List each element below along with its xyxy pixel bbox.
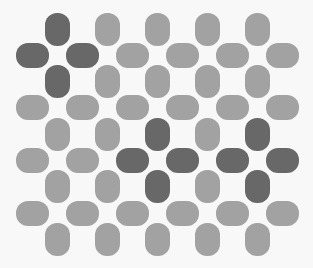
horizontal-piece-dark[interactable] [116, 148, 149, 173]
horizontal-piece-light[interactable] [66, 148, 99, 173]
vertical-piece-dark[interactable] [45, 13, 70, 46]
horizontal-piece-light[interactable] [166, 43, 199, 68]
game-board [0, 0, 313, 268]
vertical-piece-light[interactable] [45, 118, 70, 151]
horizontal-piece-dark[interactable] [216, 148, 249, 173]
horizontal-piece-light[interactable] [66, 201, 99, 226]
vertical-piece-light[interactable] [195, 65, 220, 98]
horizontal-piece-light[interactable] [266, 43, 299, 68]
horizontal-piece-light[interactable] [116, 201, 149, 226]
vertical-piece-light[interactable] [245, 223, 270, 256]
horizontal-piece-light[interactable] [116, 43, 149, 68]
vertical-piece-light[interactable] [95, 170, 120, 203]
horizontal-piece-light[interactable] [266, 201, 299, 226]
vertical-piece-dark[interactable] [145, 118, 170, 151]
vertical-piece-light[interactable] [95, 13, 120, 46]
vertical-piece-dark[interactable] [245, 170, 270, 203]
vertical-piece-dark[interactable] [245, 118, 270, 151]
horizontal-piece-light[interactable] [16, 148, 49, 173]
vertical-piece-light[interactable] [95, 65, 120, 98]
horizontal-piece-dark[interactable] [16, 43, 49, 68]
horizontal-piece-light[interactable] [216, 95, 249, 120]
vertical-piece-light[interactable] [195, 223, 220, 256]
horizontal-piece-light[interactable] [166, 201, 199, 226]
vertical-piece-light[interactable] [245, 65, 270, 98]
horizontal-piece-light[interactable] [16, 95, 49, 120]
vertical-piece-light[interactable] [145, 13, 170, 46]
vertical-piece-light[interactable] [95, 223, 120, 256]
vertical-piece-light[interactable] [195, 118, 220, 151]
vertical-piece-light[interactable] [195, 170, 220, 203]
horizontal-piece-dark[interactable] [266, 148, 299, 173]
vertical-piece-light[interactable] [195, 13, 220, 46]
vertical-piece-dark[interactable] [45, 65, 70, 98]
horizontal-piece-light[interactable] [216, 43, 249, 68]
horizontal-piece-light[interactable] [266, 95, 299, 120]
horizontal-piece-light[interactable] [66, 95, 99, 120]
horizontal-piece-light[interactable] [166, 95, 199, 120]
horizontal-piece-dark[interactable] [166, 148, 199, 173]
vertical-piece-light[interactable] [145, 223, 170, 256]
vertical-piece-light[interactable] [245, 13, 270, 46]
vertical-piece-light[interactable] [95, 118, 120, 151]
vertical-piece-light[interactable] [145, 65, 170, 98]
horizontal-piece-light[interactable] [16, 201, 49, 226]
horizontal-piece-light[interactable] [116, 95, 149, 120]
vertical-piece-light[interactable] [45, 170, 70, 203]
vertical-piece-light[interactable] [45, 223, 70, 256]
vertical-piece-dark[interactable] [145, 170, 170, 203]
horizontal-piece-light[interactable] [216, 201, 249, 226]
horizontal-piece-dark[interactable] [66, 43, 99, 68]
